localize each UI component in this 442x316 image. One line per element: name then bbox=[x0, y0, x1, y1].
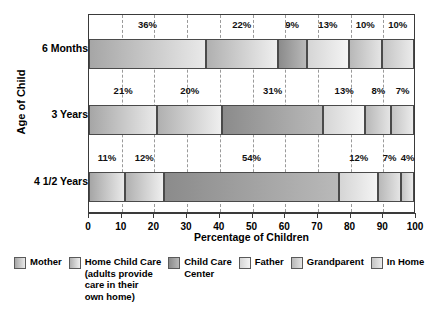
value-label: 7% bbox=[383, 152, 397, 163]
legend-label: Child Care Center bbox=[184, 256, 232, 279]
segment-in-home bbox=[391, 105, 414, 135]
legend-item-father: Father bbox=[239, 256, 284, 269]
segment-grandparent bbox=[365, 105, 391, 135]
legend-label: In Home bbox=[387, 256, 424, 268]
segment-child-care-center bbox=[222, 105, 323, 135]
value-label: 10% bbox=[388, 19, 407, 30]
category-label-4-5-years: 4 1/2 Years bbox=[2, 175, 88, 187]
value-label: 21% bbox=[114, 85, 133, 96]
segment-mother bbox=[89, 172, 125, 202]
category-label-3-years: 3 Years bbox=[2, 108, 88, 120]
value-label: 13% bbox=[318, 19, 337, 30]
legend-swatch-grandparent-icon bbox=[291, 257, 303, 269]
value-label: 31% bbox=[263, 85, 282, 96]
plot-area: 36% 22% 9% 13% 10% 10% 21% 20% 31% bbox=[88, 14, 415, 213]
value-label: 12% bbox=[135, 152, 154, 163]
x-tick-70 bbox=[317, 213, 318, 218]
x-tick-10 bbox=[121, 213, 122, 218]
category-label-6-months: 6 Months bbox=[2, 42, 88, 54]
value-label: 9% bbox=[285, 19, 299, 30]
segment-mother bbox=[89, 39, 206, 69]
stacked-bar-chart: Age of Child 6 Months 3 Years 4 1/2 Year… bbox=[0, 0, 442, 250]
legend-swatch-mother-icon bbox=[14, 257, 26, 269]
segment-grandparent bbox=[349, 39, 382, 69]
value-label-row-3-years: 21% 20% 31% 13% 8% 7% bbox=[89, 85, 414, 101]
x-axis-title: Percentage of Children bbox=[88, 231, 415, 243]
x-tick-60 bbox=[284, 213, 285, 218]
value-label: 13% bbox=[335, 85, 354, 96]
x-axis: 0 10 20 30 40 50 60 70 80 90 100 bbox=[88, 213, 415, 214]
legend-label: Grandparent bbox=[307, 256, 364, 268]
value-label: 8% bbox=[371, 85, 385, 96]
value-label: 20% bbox=[180, 85, 199, 96]
bar-row-3-years: 21% 20% 31% 13% 8% 7% bbox=[89, 81, 414, 147]
legend-item-in-home: In Home bbox=[371, 256, 424, 269]
stacked-bar-6-months bbox=[89, 39, 414, 69]
value-label: 12% bbox=[349, 152, 368, 163]
x-tick-30 bbox=[186, 213, 187, 218]
bar-row-6-months: 36% 22% 9% 13% 10% 10% bbox=[89, 15, 414, 81]
x-tick-40 bbox=[219, 213, 220, 218]
category-label-column: 6 Months 3 Years 4 1/2 Years bbox=[0, 0, 88, 218]
legend-label: Mother bbox=[30, 256, 62, 268]
value-label: 36% bbox=[138, 19, 157, 30]
chart-legend: Mother Home Child Care (adults provide c… bbox=[14, 256, 434, 302]
legend-item-child-care-center: Child Care Center bbox=[168, 256, 232, 279]
value-label: 11% bbox=[98, 152, 117, 163]
segment-father bbox=[339, 172, 378, 202]
x-tick-90 bbox=[382, 213, 383, 218]
legend-swatch-home-child-care-icon bbox=[69, 257, 81, 269]
segment-grandparent bbox=[378, 172, 401, 202]
legend-label: Home Child Care (adults provide care in … bbox=[85, 256, 162, 302]
value-label: 54% bbox=[242, 152, 261, 163]
stacked-bar-4-5-years bbox=[89, 172, 414, 202]
x-tick-50 bbox=[252, 213, 253, 218]
segment-father bbox=[323, 105, 365, 135]
segment-child-care-center bbox=[164, 172, 340, 202]
segment-home-child-care bbox=[125, 172, 164, 202]
legend-label: Father bbox=[255, 256, 284, 268]
segment-in-home bbox=[382, 39, 415, 69]
segment-child-care-center bbox=[278, 39, 307, 69]
value-label-row-4-5-years: 11% 12% 54% 12% 7% 4% bbox=[89, 152, 414, 168]
segment-home-child-care bbox=[157, 105, 222, 135]
legend-item-grandparent: Grandparent bbox=[291, 256, 364, 269]
legend-swatch-in-home-icon bbox=[371, 257, 383, 269]
x-tick-20 bbox=[153, 213, 154, 218]
value-label: 4% bbox=[401, 152, 415, 163]
legend-swatch-father-icon bbox=[239, 257, 251, 269]
segment-in-home bbox=[401, 172, 414, 202]
value-label-row-6-months: 36% 22% 9% 13% 10% 10% bbox=[89, 19, 414, 35]
value-label: 22% bbox=[232, 19, 251, 30]
x-tick-80 bbox=[350, 213, 351, 218]
legend-item-home-child-care: Home Child Care (adults provide care in … bbox=[69, 256, 162, 302]
value-label: 10% bbox=[356, 19, 375, 30]
legend-item-mother: Mother bbox=[14, 256, 62, 269]
segment-home-child-care bbox=[206, 39, 278, 69]
segment-father bbox=[307, 39, 349, 69]
bar-row-4-5-years: 11% 12% 54% 12% 7% 4% bbox=[89, 148, 414, 214]
segment-mother bbox=[89, 105, 157, 135]
x-tick-0 bbox=[88, 213, 89, 218]
legend-swatch-child-care-center-icon bbox=[168, 257, 180, 269]
stacked-bar-3-years bbox=[89, 105, 414, 135]
value-label: 7% bbox=[396, 85, 410, 96]
x-tick-100 bbox=[415, 213, 416, 218]
